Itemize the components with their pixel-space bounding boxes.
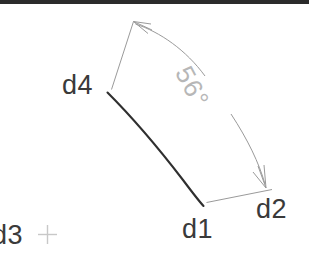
vertex-label-d3[interactable]: d3 bbox=[0, 222, 23, 249]
drawing-vector-layer bbox=[0, 0, 309, 266]
vertex-label-d1[interactable]: d1 bbox=[182, 216, 213, 243]
crosshair-marker-icon[interactable] bbox=[38, 225, 57, 244]
dimension-arc-lower[interactable] bbox=[231, 114, 265, 184]
extension-line-upper[interactable] bbox=[112, 22, 134, 90]
vertex-label-d2[interactable]: d2 bbox=[256, 196, 287, 223]
drawing-canvas[interactable]: d4 d1 d2 d3 56° bbox=[0, 0, 309, 266]
vertex-label-d4[interactable]: d4 bbox=[62, 72, 93, 99]
arrowhead-top-icon bbox=[134, 22, 153, 34]
